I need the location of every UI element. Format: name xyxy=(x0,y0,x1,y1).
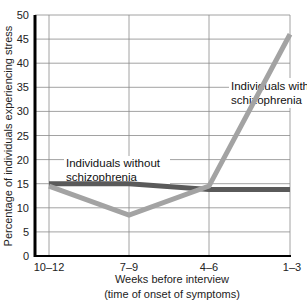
x-tick-label: 10–12 xyxy=(34,261,65,273)
y-tick-label: 30 xyxy=(17,105,29,117)
annotation-without-schizophrenia: Individuals without xyxy=(66,157,161,169)
y-tick-label: 25 xyxy=(17,130,29,142)
series-annotations: Individuals withschizophreniaIndividuals… xyxy=(64,78,307,184)
series-lines xyxy=(49,34,290,215)
y-tick-label: 0 xyxy=(23,250,29,262)
x-axis-title: Weeks before interview xyxy=(115,273,229,285)
y-tick-label: 35 xyxy=(17,81,29,93)
y-tick-label: 20 xyxy=(17,154,29,166)
y-tick-label: 50 xyxy=(17,9,29,21)
y-axis-ticks: 05101520253035404550 xyxy=(17,9,29,262)
x-axis-ticks: 10–127–94–61–3 xyxy=(34,261,301,273)
x-tick-label: 1–3 xyxy=(283,261,301,273)
x-axis-title-line2: (time of onset of symptoms) xyxy=(104,288,240,300)
y-tick-label: 15 xyxy=(17,178,29,190)
x-tick-label: 4–6 xyxy=(200,261,218,273)
y-tick-label: 40 xyxy=(17,57,29,69)
y-tick-label: 10 xyxy=(17,202,29,214)
annotation-with-schizophrenia: Individuals with xyxy=(231,80,307,92)
y-tick-label: 5 xyxy=(23,226,29,238)
series-line-without-schizophrenia xyxy=(49,184,290,190)
grid-lines xyxy=(35,15,290,256)
annotation-with-schizophrenia-line2: schizophrenia xyxy=(231,94,303,106)
x-tick-label: 7–9 xyxy=(120,261,138,273)
line-chart: 05101520253035404550 10–127–94–61–3 Indi… xyxy=(0,0,307,305)
y-axis-title: Percentage of individuals experiencing s… xyxy=(2,25,14,246)
y-tick-label: 45 xyxy=(17,33,29,45)
